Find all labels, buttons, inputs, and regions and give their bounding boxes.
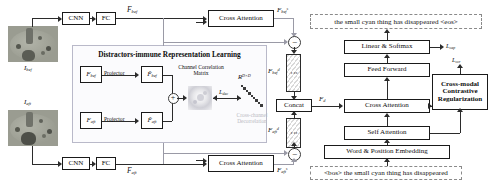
arrow-faft-projector-bottom (135, 118, 139, 124)
faft-d-vector-dots: ⋮ (291, 129, 297, 137)
faft-node-box: Faft (80, 112, 102, 129)
input-caption-text: <bos> the small cyan thing has disappear… (324, 169, 448, 177)
conn-imgaft-right (32, 164, 58, 165)
arrow-imgaft-cnn (58, 161, 62, 167)
cross-attention-dec-label: Cross Attention (365, 102, 409, 109)
fhat-bef-box: F̃bef (141, 66, 163, 83)
feed-forward-label: Feed Forward (367, 66, 406, 73)
dirl-panel-title: Distractors-immune Representation Learni… (76, 50, 263, 59)
image-before-label: Ibef (24, 64, 32, 72)
arrow-panel-minus-top (284, 39, 288, 45)
fd-label: Fd (319, 95, 325, 103)
projector-bottom-label: Projector (104, 116, 125, 122)
projector-top-label: Projector (104, 70, 125, 76)
arrow-cnn-fc-top (92, 16, 96, 22)
figure-canvas: Ibef Iaft CNN FC Fbef Cross Attention (0, 0, 491, 184)
cross-attention-bottom-box: Cross Attention (208, 155, 274, 172)
conn-fbefs-h (274, 18, 294, 19)
conn-faftas-h (274, 164, 294, 165)
conn-fc-bottom-right (116, 164, 204, 165)
fbef-d-vector-dots: ⋮ (291, 69, 297, 77)
conn-panel-minus-bottom-h (163, 153, 287, 154)
arrow-cnn-fc-bottom (92, 161, 96, 167)
arrow-crossattn-ff (384, 77, 390, 81)
arrow-faftas-minus (291, 158, 297, 162)
input-caption-box: <bos> the small cyan thing has disappear… (310, 166, 462, 180)
arrow-fbef-projector-top (135, 72, 139, 78)
loss-dec-label: Ldec (219, 88, 228, 96)
conn-fhatbef-down (172, 75, 173, 95)
cnn-bottom-label: CNN (69, 160, 84, 167)
conn-panel-minus-top-h (163, 42, 287, 43)
arrow-selfattn-crossattn (384, 113, 390, 117)
fc-top-label: FC (102, 15, 111, 22)
cross-channel-decorrelation-caption: Cross-channel Decorrelation (226, 112, 278, 124)
arrow-crossattn-bottom-in2 (203, 158, 207, 164)
arrow-imgbef-cnn (58, 16, 62, 22)
arrow-linear-losscap (440, 44, 444, 50)
conn-crossattn-ff (387, 79, 388, 99)
image-after (8, 110, 58, 146)
ccr-label-line3: Regularization (438, 96, 482, 103)
correlation-op-glyph: + (171, 94, 176, 102)
space-rdxd-label: RD×D (238, 73, 251, 80)
cross-attention-top-box: Cross Attention (208, 10, 274, 27)
conn-concat-crossattn (312, 106, 341, 107)
cnn-bottom-box: CNN (62, 157, 90, 170)
arrow-op-corr (183, 95, 187, 101)
conn-imgbef-right (32, 18, 58, 19)
concat-label: Concat (284, 102, 304, 109)
fhat-aft-box: F̃aft (141, 112, 163, 129)
arrow-input-embed (384, 158, 390, 162)
conn-selfattn-ccr-h (430, 133, 460, 134)
cnn-top-box: CNN (62, 12, 90, 25)
linear-softmax-box: Linear & Softmax (344, 40, 430, 54)
self-attention-label: Self Attention (367, 129, 406, 136)
channel-correlation-matrix (188, 86, 212, 110)
ccr-box: Cross-modal Contrastive Regularization (432, 74, 488, 110)
image-after-label: Iaft (24, 98, 31, 106)
arrow-linear-output (384, 29, 390, 33)
conn-selfattn-ccr-v (460, 110, 461, 133)
subtract-node-top: − (288, 36, 301, 49)
feature-aft-label: Faft (127, 166, 137, 175)
arrow-ccr-lossccr (457, 64, 463, 68)
cross-attention-bottom-label: Cross Attention (219, 160, 263, 167)
minus-glyph-top: − (292, 38, 297, 47)
faft-s-label: Fafts (277, 166, 288, 174)
fbef-d-vector: ⋮ (286, 54, 301, 92)
arrow-loss-dec-left (213, 95, 217, 101)
arrow-selfattn-ccr (457, 108, 463, 112)
fhat-aft-label: F̃aft (148, 117, 157, 125)
image-before (8, 26, 58, 62)
fhat-bef-label: F̃bef (147, 71, 157, 79)
fbef-s-label: Fbefs (277, 6, 288, 14)
fc-bottom-box: FC (96, 157, 116, 170)
output-caption-text: the small cyan thing has disappeared <eo… (334, 18, 457, 26)
cross-attention-dec-box: Cross Attention (344, 99, 430, 113)
cross-attention-top-label: Cross Attention (219, 15, 263, 22)
feature-bef-label: Fbef (127, 5, 137, 14)
fc-top-box: FC (96, 12, 116, 25)
arrow-embed-selfattn (384, 139, 390, 143)
arrow-minus-bottom-vec (291, 142, 297, 146)
conn-panel-minus-bottom-v (163, 147, 164, 151)
arrow-ff-linear (384, 54, 390, 58)
arrow-crossattn-ccr (428, 103, 432, 109)
loss-cap-label: Lcap (446, 42, 455, 50)
output-caption-box: the small cyan thing has disappeared <eo… (310, 14, 482, 29)
arrow-panel-minus-bottom (284, 150, 288, 156)
channel-correlation-matrix-label: Channel Correlation Matrix (172, 64, 230, 76)
faft-node-label: Faft (87, 117, 96, 125)
identity-matrix-scatter (240, 84, 264, 110)
arrow-vecaft-concat (291, 111, 297, 115)
arrow-crossattn-top-in2 (203, 19, 207, 25)
loss-ccr-label: Lccr (452, 56, 461, 64)
conn-imgbef-up (32, 18, 33, 27)
cnn-top-label: CNN (69, 15, 84, 22)
conn-fc-top-right (116, 18, 204, 19)
fbef-node-box: Fbef (80, 66, 102, 83)
fc-bottom-label: FC (102, 160, 111, 167)
feed-forward-box: Feed Forward (344, 63, 430, 77)
word-position-embedding-label: Word & Position Embedding (346, 148, 427, 155)
